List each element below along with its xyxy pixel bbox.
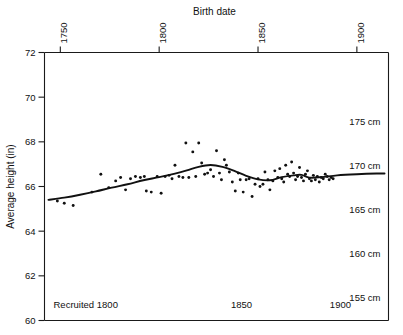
data-point xyxy=(184,142,187,145)
data-point xyxy=(257,177,260,180)
data-point xyxy=(212,175,215,178)
recruited-axis-label: Recruited 1800 xyxy=(54,299,118,310)
data-point xyxy=(223,158,226,161)
data-point xyxy=(326,175,329,178)
data-point xyxy=(251,195,254,198)
data-point xyxy=(286,173,289,176)
data-point xyxy=(225,164,228,167)
data-point xyxy=(273,169,276,172)
data-point xyxy=(262,183,265,186)
y-tick-label: 72 xyxy=(25,47,36,58)
data-point xyxy=(284,164,287,167)
data-point xyxy=(248,177,251,180)
data-point xyxy=(164,175,167,178)
data-point xyxy=(150,191,153,194)
data-point xyxy=(160,192,163,195)
data-point xyxy=(156,175,159,178)
y-tick-label: 64 xyxy=(25,226,36,237)
data-point xyxy=(134,175,137,178)
data-point xyxy=(107,186,110,189)
data-point xyxy=(129,177,132,180)
data-point xyxy=(114,179,117,182)
data-point xyxy=(234,190,237,193)
data-point xyxy=(308,177,311,180)
recruited-axis-label: 1900 xyxy=(330,299,351,310)
recruited-axis-label: 1850 xyxy=(231,299,252,310)
data-point xyxy=(143,175,146,178)
data-point xyxy=(99,173,102,176)
data-point xyxy=(312,174,315,177)
data-point xyxy=(280,177,283,180)
data-point xyxy=(266,178,269,181)
data-point xyxy=(177,175,180,178)
cm-axis-label: 175 cm xyxy=(349,116,380,127)
data-point xyxy=(145,190,148,193)
data-point xyxy=(218,172,221,175)
x-tick-label: 1750 xyxy=(58,22,69,43)
data-point xyxy=(187,176,190,179)
data-point xyxy=(206,172,209,175)
y-axis-title: Average height (in) xyxy=(5,144,16,228)
data-point xyxy=(168,174,171,177)
data-point xyxy=(254,183,257,186)
data-point xyxy=(302,179,305,182)
data-point xyxy=(56,200,59,203)
data-point xyxy=(263,171,266,174)
data-point xyxy=(239,178,242,181)
data-point xyxy=(242,191,245,194)
cm-axis-label: 165 cm xyxy=(349,204,380,215)
y-tick-label: 60 xyxy=(25,315,36,326)
data-point xyxy=(197,142,200,145)
data-point xyxy=(322,177,325,180)
data-point xyxy=(310,179,313,182)
chart-canvas: 1750180018501900Birth date60626466687072… xyxy=(0,0,403,335)
data-point xyxy=(282,181,285,184)
data-point xyxy=(290,160,293,163)
data-point xyxy=(259,185,262,188)
data-point xyxy=(276,176,279,179)
cm-axis-label: 170 cm xyxy=(349,160,380,171)
data-point xyxy=(124,188,127,191)
height-by-birth-date-chart: 1750180018501900Birth date60626466687072… xyxy=(0,0,403,335)
data-point xyxy=(271,179,274,182)
data-point xyxy=(304,173,307,176)
data-point xyxy=(292,172,295,175)
data-point xyxy=(171,177,174,180)
data-point xyxy=(174,164,177,167)
data-point xyxy=(294,178,297,181)
data-point xyxy=(194,175,197,178)
data-point xyxy=(296,175,299,178)
data-point xyxy=(324,173,327,176)
data-point xyxy=(268,188,271,191)
data-point xyxy=(228,171,231,174)
data-point xyxy=(245,178,248,181)
y-tick-label: 62 xyxy=(25,270,36,281)
x-tick-label: 1900 xyxy=(355,22,366,43)
data-point xyxy=(119,176,122,179)
data-point xyxy=(215,149,218,152)
data-point xyxy=(191,150,194,153)
data-point xyxy=(316,175,319,178)
x-tick-label: 1800 xyxy=(157,22,168,43)
data-point xyxy=(200,162,203,165)
data-point xyxy=(314,178,317,181)
data-point xyxy=(220,178,223,181)
data-point xyxy=(318,181,321,184)
data-point xyxy=(300,176,303,179)
data-point xyxy=(63,202,66,205)
y-tick-label: 70 xyxy=(25,92,36,103)
data-point xyxy=(181,176,184,179)
data-point xyxy=(72,204,75,207)
data-point xyxy=(203,173,206,176)
data-point xyxy=(91,191,94,194)
data-point xyxy=(139,176,142,179)
data-point xyxy=(306,169,309,172)
cm-axis-label: 160 cm xyxy=(349,248,380,259)
y-tick-label: 66 xyxy=(25,181,36,192)
x-tick-label: 1850 xyxy=(256,22,267,43)
y-tick-label: 68 xyxy=(25,136,36,147)
data-point xyxy=(298,166,301,169)
data-point xyxy=(237,172,240,175)
trend-curve xyxy=(48,165,384,200)
data-point xyxy=(278,167,281,170)
